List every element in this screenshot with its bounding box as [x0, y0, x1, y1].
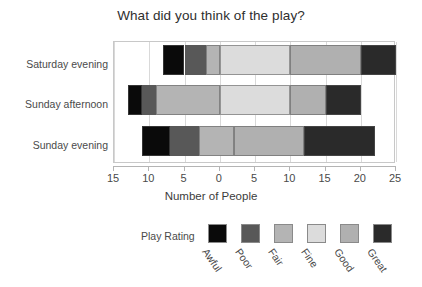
legend-label: Fair [266, 246, 286, 268]
y-axis-label: Sunday afternoon [0, 98, 108, 110]
legend-item[interactable]: Fine [307, 224, 326, 243]
x-axis-tick-mark [184, 166, 185, 171]
x-axis-tick-mark [325, 166, 326, 171]
chart-container: What did you think of the play? Saturday… [0, 0, 422, 287]
bar-segment[interactable] [170, 126, 198, 156]
legend-title: Play Rating [141, 230, 195, 242]
legend-item[interactable]: Awful [208, 224, 227, 243]
x-axis-tick-label: 5 [239, 172, 269, 184]
x-axis-tick-label: 10 [133, 172, 163, 184]
legend-label: Awful [200, 246, 224, 274]
bar-segment[interactable] [220, 85, 291, 115]
bar-segment[interactable] [206, 45, 220, 75]
legend-swatch [208, 224, 227, 243]
x-axis-tick-label: 25 [380, 172, 410, 184]
x-axis-tick-label: 15 [98, 172, 128, 184]
x-axis-tick-mark [360, 166, 361, 171]
x-axis-tick-label: 20 [345, 172, 375, 184]
y-axis-label: Sunday evening [0, 139, 108, 151]
x-axis-tick-label: 5 [169, 172, 199, 184]
bar-row [114, 85, 394, 115]
bar-segment[interactable] [185, 45, 206, 75]
x-axis-title: Number of People [0, 190, 422, 202]
legend-swatch [307, 224, 326, 243]
x-axis-tick-label: 10 [274, 172, 304, 184]
bar-segment[interactable] [304, 126, 375, 156]
x-axis-tick-mark [113, 166, 114, 171]
chart-title: What did you think of the play? [0, 8, 422, 23]
bar-segment[interactable] [326, 85, 361, 115]
bar-segment[interactable] [163, 45, 184, 75]
legend-swatch [274, 224, 293, 243]
legend-label: Good [332, 246, 357, 274]
bar-segment[interactable] [128, 85, 142, 115]
legend-item[interactable]: Great [373, 224, 392, 243]
bar-row [114, 45, 394, 75]
x-axis-tick-mark [148, 166, 149, 171]
legend-swatch [340, 224, 359, 243]
bar-segment[interactable] [156, 85, 219, 115]
bar-row [114, 126, 394, 156]
bar-segment[interactable] [199, 126, 234, 156]
x-axis-tick-mark [254, 166, 255, 171]
x-axis-tick-mark [289, 166, 290, 171]
legend-label: Fine [299, 246, 321, 270]
bar-segment[interactable] [142, 85, 156, 115]
legend-item[interactable]: Fair [274, 224, 293, 243]
bar-segment[interactable] [220, 45, 291, 75]
legend-item[interactable]: Poor [241, 224, 260, 243]
legend-label: Great [365, 246, 390, 274]
y-axis-label: Saturday evening [0, 58, 108, 70]
bar-segment[interactable] [290, 85, 325, 115]
x-axis-tick-mark [219, 166, 220, 171]
plot-area [113, 41, 395, 163]
gridline [396, 42, 397, 162]
bar-segment[interactable] [142, 126, 170, 156]
legend-item[interactable]: Good [340, 224, 359, 243]
bar-segment[interactable] [290, 45, 361, 75]
x-axis-tick-label: 15 [310, 172, 340, 184]
legend: Play Rating AwfulPoorFairFineGoodGreat [0, 222, 422, 287]
legend-label: Poor [233, 246, 256, 271]
legend-swatch [373, 224, 392, 243]
x-axis-tick-mark [395, 166, 396, 171]
bar-segment[interactable] [234, 126, 305, 156]
x-axis-tick-label: 0 [204, 172, 234, 184]
bar-segment[interactable] [361, 45, 396, 75]
legend-swatch [241, 224, 260, 243]
